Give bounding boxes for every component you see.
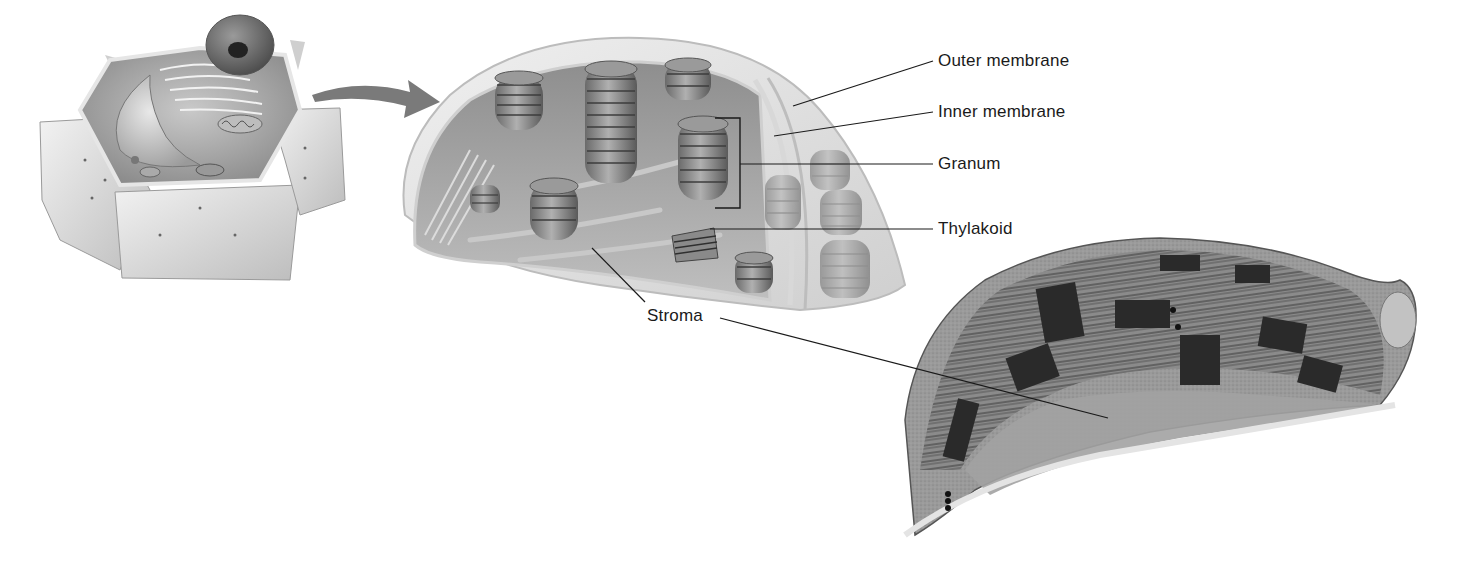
label-stroma: Stroma (647, 306, 703, 326)
figure-artwork (0, 0, 1477, 565)
label-inner-membrane: Inner membrane (938, 102, 1066, 122)
chloroplast-illustration (403, 38, 905, 310)
label-thylakoid: Thylakoid (938, 219, 1013, 239)
plant-cell-illustration (40, 15, 345, 280)
label-outer-membrane: Outer membrane (938, 51, 1069, 71)
chloroplast-micrograph (905, 238, 1416, 535)
label-granum: Granum (938, 154, 1001, 174)
leader-outer-membrane (793, 61, 933, 106)
chloroplast-figure: Outer membrane Inner membrane Granum Thy… (0, 0, 1477, 565)
